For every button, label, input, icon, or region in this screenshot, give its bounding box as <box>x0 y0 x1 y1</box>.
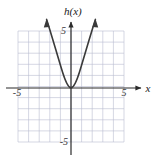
y-axis-label: h(x) <box>64 5 82 18</box>
curve-arrowhead-left <box>44 18 50 27</box>
x-tick-label-five: 5 <box>122 87 127 98</box>
y-tick-label-negative-five: -5 <box>60 136 68 147</box>
curve-arrowhead-right <box>92 18 98 27</box>
x-tick-label-negative-five: -5 <box>13 87 21 98</box>
parabola-graph-figure: h(x) x -5 5 5 -5 <box>0 0 161 163</box>
y-tick-label-five: 5 <box>61 25 66 36</box>
x-axis-label: x <box>145 82 151 94</box>
coordinate-plane-svg: h(x) x -5 5 5 -5 <box>0 0 161 163</box>
